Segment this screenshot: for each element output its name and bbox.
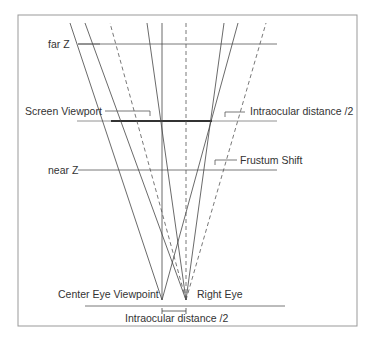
center-frustum-right: [162, 23, 238, 300]
right-frustum-left: [85, 23, 186, 300]
intraocular-top-label: Intraocular distance /2: [250, 105, 353, 117]
frustum-shift-label: Frustum Shift: [240, 154, 302, 166]
near-z-label: near Z: [48, 164, 78, 176]
right-frustum-right: [186, 23, 224, 300]
far-z-label: far Z: [48, 38, 70, 50]
right-frustum-mid: [147, 23, 186, 300]
intraocular-bottom-label: Intraocular distance /2: [125, 312, 228, 324]
center-eye-label: Center Eye Viewpoint: [58, 288, 159, 300]
screen-viewport-label: Screen Viewport: [25, 105, 102, 117]
right-eye-label: Right Eye: [197, 288, 243, 300]
